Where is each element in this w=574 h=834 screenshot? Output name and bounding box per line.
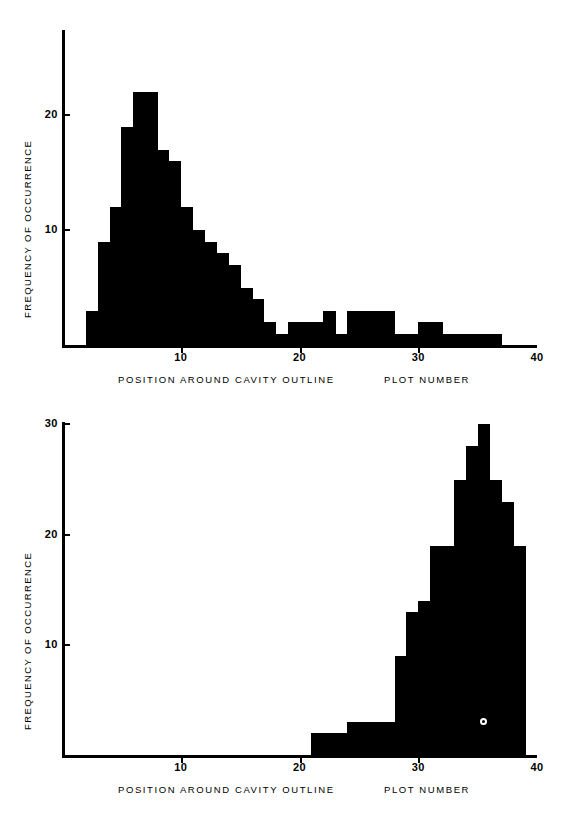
- histogram-bar: [86, 311, 98, 346]
- y-tick-label: 20: [28, 109, 58, 120]
- histogram-bar: [300, 322, 312, 345]
- histogram-bar: [501, 502, 513, 755]
- histogram-bar: [311, 322, 323, 345]
- x-tick-label: 10: [166, 352, 196, 363]
- y-tick: [65, 423, 70, 425]
- bottom-chart-panel: 10203010203040FREQUENCY OF OCCURRENCEPOS…: [0, 400, 574, 834]
- histogram-bar: [323, 311, 335, 346]
- x-tick-label: 40: [522, 352, 552, 363]
- histogram-bar: [406, 612, 418, 755]
- x-tick-label: 20: [285, 762, 315, 773]
- y-tick: [65, 534, 70, 536]
- histogram-bar: [252, 299, 264, 345]
- histogram-bar: [442, 334, 454, 346]
- y-axis-line: [62, 422, 65, 758]
- y-tick-label: 20: [28, 529, 58, 540]
- histogram-bar: [347, 311, 359, 346]
- histogram-bar: [347, 722, 359, 755]
- histogram-bar: [395, 656, 407, 755]
- y-axis-line: [62, 30, 65, 348]
- histogram-bar: [335, 334, 347, 346]
- histogram-bar: [240, 288, 252, 346]
- histogram-bar: [216, 253, 228, 345]
- x-axis-title-plot-number: PLOT NUMBER: [384, 784, 470, 795]
- histogram-bar: [490, 334, 502, 346]
- histogram-bar: [264, 322, 276, 345]
- histogram-bar: [169, 161, 181, 345]
- x-tick-label: 30: [403, 352, 433, 363]
- y-tick: [65, 229, 70, 231]
- histogram-bar: [418, 601, 430, 755]
- x-tick-label: 20: [285, 352, 315, 363]
- histogram-bar: [276, 334, 288, 346]
- histogram-bar: [205, 242, 217, 346]
- x-tick-label: 10: [166, 762, 196, 773]
- y-tick: [65, 644, 70, 646]
- histogram-bar: [490, 480, 502, 756]
- histogram-bar: [371, 311, 383, 346]
- histogram-bar: [121, 127, 133, 346]
- histogram-bar: [359, 311, 371, 346]
- histogram-bar: [181, 207, 193, 345]
- histogram-bar: [383, 311, 395, 346]
- x-axis-title-position: POSITION AROUND CAVITY OUTLINE: [118, 374, 335, 385]
- histogram-bar: [359, 722, 371, 755]
- histogram-bar: [430, 546, 442, 755]
- histogram-bar: [478, 334, 490, 346]
- histogram-bar: [454, 334, 466, 346]
- y-axis-title: FREQUENCY OF OCCURRENCE: [22, 552, 33, 730]
- histogram-bar: [466, 446, 478, 755]
- histogram-bar: [395, 334, 407, 346]
- x-tick-label: 40: [522, 762, 552, 773]
- histogram-bar: [98, 242, 110, 346]
- histogram-bar: [418, 322, 430, 345]
- histogram-bar: [133, 92, 145, 345]
- histogram-bar: [513, 546, 525, 755]
- x-axis-title-plot-number: PLOT NUMBER: [384, 374, 470, 385]
- histogram-bar: [157, 150, 169, 346]
- x-tick-label: 30: [403, 762, 433, 773]
- y-tick: [65, 114, 70, 116]
- histogram-bar: [145, 92, 157, 345]
- histogram-bar: [228, 265, 240, 346]
- histogram-bar: [478, 424, 490, 755]
- top-chart-panel: 102010203040FREQUENCY OF OCCURRENCEPOSIT…: [0, 0, 574, 400]
- y-axis-title: FREQUENCY OF OCCURRENCE: [22, 140, 33, 318]
- histogram-bar: [454, 480, 466, 756]
- histogram-bar: [335, 733, 347, 755]
- histogram-bar: [311, 733, 323, 755]
- histogram-bar: [193, 230, 205, 345]
- histogram-bar: [110, 207, 122, 345]
- x-axis-title-position: POSITION AROUND CAVITY OUTLINE: [118, 784, 335, 795]
- histogram-bar: [288, 322, 300, 345]
- histogram-bar: [430, 322, 442, 345]
- histogram-bar: [442, 546, 454, 755]
- histogram-bar: [466, 334, 478, 346]
- y-tick-label: 30: [28, 418, 58, 429]
- histogram-bar: [406, 334, 418, 346]
- histogram-bar: [371, 722, 383, 755]
- histogram-bar: [383, 722, 395, 755]
- histogram-bar: [323, 733, 335, 755]
